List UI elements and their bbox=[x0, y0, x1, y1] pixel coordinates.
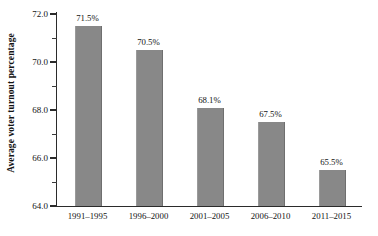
x-tick-label: 2006–2010 bbox=[238, 212, 304, 221]
bar-value-label: 65.5% bbox=[308, 158, 356, 167]
y-axis-title-text: Average voter turnout percentage bbox=[6, 33, 16, 173]
y-tick-major bbox=[50, 61, 57, 62]
y-tick-label: 72.0 bbox=[4, 10, 48, 19]
x-tick-label: 1996–2000 bbox=[116, 212, 182, 221]
y-tick-major bbox=[50, 109, 57, 110]
bar bbox=[258, 122, 285, 206]
bar bbox=[319, 170, 346, 206]
y-tick-label: 66.0 bbox=[4, 154, 48, 163]
bar-value-label: 71.5% bbox=[64, 14, 112, 23]
y-tick-label: 68.0 bbox=[4, 106, 48, 115]
y-tick-major bbox=[50, 157, 57, 158]
x-tick-label: 2001–2005 bbox=[177, 212, 243, 221]
y-tick-label: 64.0 bbox=[4, 202, 48, 211]
x-tick-label: 1991–1995 bbox=[55, 212, 121, 221]
bar bbox=[197, 108, 224, 206]
bar bbox=[75, 26, 102, 206]
bar-chart: Average voter turnout percentage 64.066.… bbox=[0, 0, 378, 236]
x-tick-label: 2011–2015 bbox=[299, 212, 365, 221]
bar-value-label: 70.5% bbox=[125, 38, 173, 47]
y-axis-title: Average voter turnout percentage bbox=[0, 0, 22, 206]
bar-value-label: 67.5% bbox=[247, 110, 295, 119]
plot-area bbox=[57, 14, 362, 206]
bar-value-label: 68.1% bbox=[186, 96, 234, 105]
y-tick-major bbox=[50, 205, 57, 206]
y-tick-label: 70.0 bbox=[4, 58, 48, 67]
bar bbox=[136, 50, 163, 206]
y-tick-major bbox=[50, 13, 57, 14]
